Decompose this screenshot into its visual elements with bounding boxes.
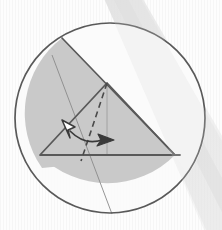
diagram-canvas (0, 0, 222, 230)
geometry-figure (0, 0, 222, 230)
